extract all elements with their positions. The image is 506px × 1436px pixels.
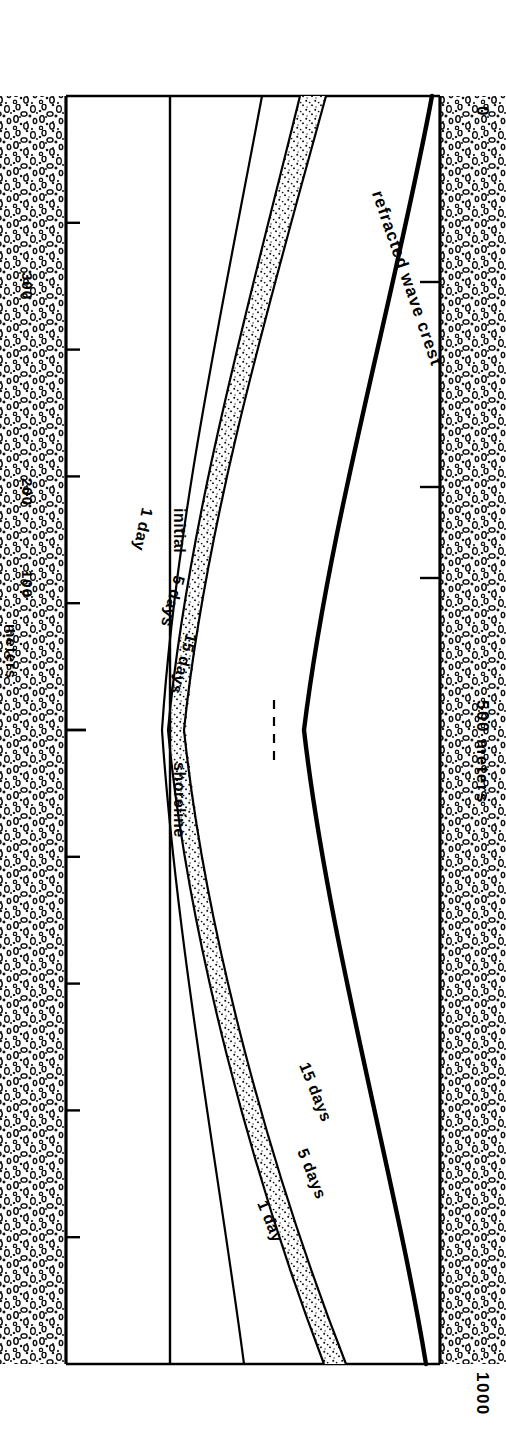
y-axis-tick-label-100: 100 (19, 570, 36, 598)
x-axis-tick-label-0: 0 (472, 106, 492, 117)
label-shoreline: shoreline (170, 762, 188, 838)
figure-rotation-wrapper: 1000 500 meters 0 300 200 100 meters ref… (0, 0, 506, 1436)
y-axis-tick-label-200: 200 (19, 478, 36, 506)
x-axis-ticks (66, 223, 86, 1237)
y-axis-tick-label-300: 300 (19, 272, 36, 300)
shoreline-change-figure: 1000 500 meters 0 300 200 100 meters ref… (0, 0, 506, 1436)
plot-canvas (0, 0, 506, 1436)
x-axis-label-500-meters: 500 meters (472, 700, 492, 804)
y-axis-label-meters: meters (3, 624, 20, 679)
x-axis-tick-label-1000: 1000 (472, 1372, 492, 1416)
label-initial: initial (170, 508, 188, 553)
curve-5-days (168, 96, 324, 1364)
